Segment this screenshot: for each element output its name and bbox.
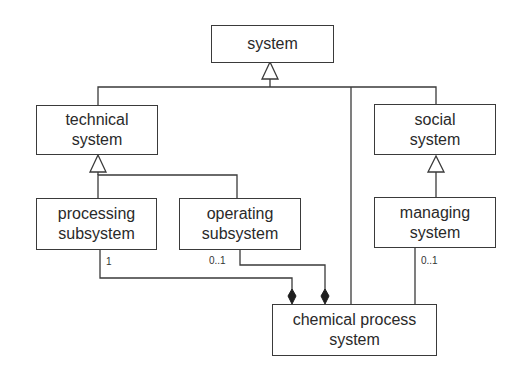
class-label: system	[247, 34, 298, 54]
multiplicity-operating: 0..1	[209, 255, 226, 266]
class-managing-system: managing system	[374, 197, 496, 248]
multiplicity-processing: 1	[106, 256, 112, 267]
class-technical-system: technical system	[36, 105, 158, 155]
class-label: system	[410, 223, 461, 243]
class-label: managing	[400, 203, 470, 223]
class-label: system	[72, 130, 123, 150]
class-label: social	[415, 110, 456, 130]
composition-line-processing	[100, 249, 292, 290]
generalization-arrow-technical-icon	[90, 155, 106, 172]
multiplicity-managing: 0..1	[421, 255, 438, 266]
class-label: system	[329, 330, 380, 350]
class-label: subsystem	[202, 224, 278, 244]
class-label: operating	[207, 204, 274, 224]
composition-line-operating	[240, 249, 325, 290]
class-label: technical	[65, 110, 128, 130]
class-system: system	[211, 25, 334, 63]
generalization-line-top	[98, 87, 436, 105]
class-label: system	[410, 130, 461, 150]
class-label: chemical process	[293, 310, 417, 330]
generalization-arrow-system-icon	[262, 62, 278, 79]
class-social-system: social system	[374, 104, 496, 155]
class-processing-subsystem: processing subsystem	[36, 198, 157, 250]
class-label: processing	[58, 204, 135, 224]
composition-diamond-processing-icon	[288, 289, 296, 304]
generalization-arrow-social-icon	[428, 156, 444, 172]
generalization-line-technical	[98, 175, 237, 198]
class-label: subsystem	[58, 224, 134, 244]
class-chemical-process-system: chemical process system	[272, 304, 437, 356]
composition-diamond-operating-icon	[321, 289, 329, 304]
class-operating-subsystem: operating subsystem	[179, 198, 301, 250]
